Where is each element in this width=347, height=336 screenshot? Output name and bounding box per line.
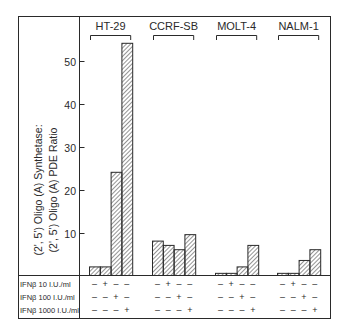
minus-sign: – (187, 292, 192, 302)
plus-sign: + (239, 292, 244, 302)
plus-sign: + (229, 279, 234, 289)
bar (111, 172, 122, 275)
treatment-row: IFNβ 1000 I.U./ml–––+–––+–––+–––+ (20, 305, 317, 315)
minus-sign: – (103, 292, 108, 302)
minus-sign: – (218, 305, 223, 315)
treatment-label: IFNβ 1000 I.U./ml (20, 306, 79, 315)
treatment-table: IFNβ 10 I.U./ml–+–––+–––+–––+––IFNβ 100 … (20, 279, 317, 315)
bar (299, 260, 310, 275)
bar (153, 241, 164, 275)
bar (278, 273, 289, 275)
minus-sign: – (176, 305, 181, 315)
plus-sign: + (312, 305, 317, 315)
plus-sign: + (176, 292, 181, 302)
minus-sign: – (166, 305, 171, 315)
minus-sign: – (124, 279, 129, 289)
bar-group-molt-4: MOLT-4 (216, 20, 259, 276)
bar (163, 245, 174, 275)
minus-sign: – (155, 292, 160, 302)
group-bracket (154, 36, 194, 41)
minus-sign: – (187, 279, 192, 289)
bar (90, 267, 101, 276)
minus-sign: – (124, 292, 129, 302)
plus-sign: + (103, 279, 108, 289)
bar (185, 235, 196, 276)
bar (100, 267, 111, 276)
minus-sign: – (250, 292, 255, 302)
group-label: HT-29 (96, 20, 126, 32)
bar (226, 273, 237, 275)
bar (216, 273, 227, 275)
minus-sign: – (218, 279, 223, 289)
bar-chart: (2', 5') Oligo (A) Synthetase: (2', 5') … (0, 0, 347, 336)
bar-groups: HT-29CCRF-SBMOLT-4NALM-1 (90, 20, 321, 276)
plus-sign: + (291, 279, 296, 289)
minus-sign: – (312, 292, 317, 302)
plus-sign: + (124, 305, 129, 315)
minus-sign: – (239, 279, 244, 289)
minus-sign: – (250, 279, 255, 289)
minus-sign: – (291, 305, 296, 315)
minus-sign: – (155, 279, 160, 289)
bar (122, 43, 133, 275)
minus-sign: – (92, 292, 97, 302)
treatment-label: IFNβ 10 I.U./ml (20, 280, 71, 289)
minus-sign: – (312, 279, 317, 289)
plus-sign: + (187, 305, 192, 315)
group-bracket (217, 36, 257, 41)
bar-group-nalm-1: NALM-1 (278, 20, 321, 276)
bar-group-ht-29: HT-29 (90, 20, 133, 276)
y-tick-label: 40 (64, 99, 76, 111)
bar (248, 245, 259, 275)
bar (174, 250, 185, 276)
y-tick-label: 50 (64, 56, 76, 68)
group-bracket (91, 36, 131, 41)
minus-sign: – (280, 292, 285, 302)
treatment-label: IFNβ 100 I.U./ml (20, 293, 75, 302)
bar (310, 250, 321, 276)
plus-sign: + (301, 292, 306, 302)
minus-sign: – (176, 279, 181, 289)
minus-sign: – (92, 279, 97, 289)
minus-sign: – (301, 279, 306, 289)
minus-sign: – (239, 305, 244, 315)
y-axis-label: (2', 5') Oligo (A) Synthetase: (2', 5') … (32, 124, 59, 255)
y-tick-label: 30 (64, 142, 76, 154)
bar-group-ccrf-sb: CCRF-SB (149, 20, 198, 276)
treatment-row: IFNβ 10 I.U./ml–+–––+–––+–––+–– (20, 279, 317, 289)
minus-sign: – (155, 305, 160, 315)
y-tick-label: 20 (64, 185, 76, 197)
minus-sign: – (291, 292, 296, 302)
bar (237, 267, 248, 276)
minus-sign: – (113, 305, 118, 315)
minus-sign: – (301, 305, 306, 315)
group-bracket (279, 36, 319, 41)
y-tick-label: 10 (64, 228, 76, 240)
minus-sign: – (103, 305, 108, 315)
minus-sign: – (92, 305, 97, 315)
plus-sign: + (166, 279, 171, 289)
plus-sign: + (113, 292, 118, 302)
bar (288, 273, 299, 275)
svg-text:(2', 5') Oligo (A) Synthetase:: (2', 5') Oligo (A) Synthetase: (32, 124, 44, 255)
svg-text:(2', 5') Oligo (A) PDE Ratio: (2', 5') Oligo (A) PDE Ratio (47, 127, 59, 252)
group-label: CCRF-SB (149, 20, 198, 32)
group-label: NALM-1 (278, 20, 318, 32)
plus-sign: + (250, 305, 255, 315)
minus-sign: – (280, 279, 285, 289)
minus-sign: – (280, 305, 285, 315)
treatment-row: IFNβ 100 I.U./ml––+–––+–––+–––+– (20, 292, 317, 302)
minus-sign: – (229, 305, 234, 315)
minus-sign: – (166, 292, 171, 302)
minus-sign: – (229, 292, 234, 302)
y-ticks: 1020304050 (64, 56, 84, 240)
minus-sign: – (218, 292, 223, 302)
minus-sign: – (113, 279, 118, 289)
group-label: MOLT-4 (217, 20, 256, 32)
